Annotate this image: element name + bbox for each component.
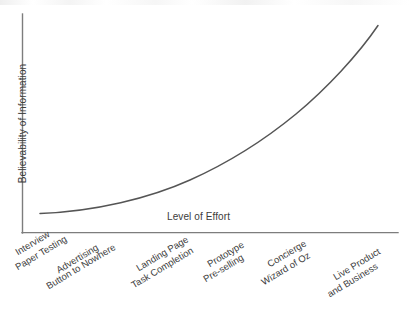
believability-effort-chart: Believability of Information Level of Ef… — [0, 0, 409, 330]
x-axis-title: Level of Effort — [167, 211, 230, 222]
believability-curve — [40, 26, 378, 214]
y-axis-title: Believability of Information — [17, 44, 28, 204]
